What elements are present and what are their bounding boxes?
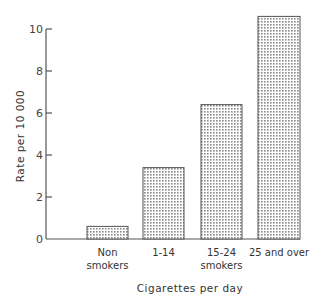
y-tick-label: 8	[36, 65, 43, 78]
x-axis-title: Cigarettes per day	[137, 282, 244, 294]
x-category-label: 15-24	[207, 247, 236, 258]
y-tick-label: 2	[36, 191, 43, 204]
bar	[258, 16, 300, 239]
y-tick-label: 4	[36, 149, 43, 162]
x-category-label: 25 and over	[249, 247, 310, 258]
y-tick-label: 6	[36, 107, 43, 120]
x-axis-category-labels: Nonsmokers1-1415-24smokers25 and over	[87, 247, 310, 271]
x-category-label: 1-14	[152, 247, 175, 258]
bar-chart: 0246810 Nonsmokers1-1415-24smokers25 and…	[0, 0, 330, 304]
x-category-label: smokers	[201, 260, 243, 271]
x-category-label: Non	[98, 247, 118, 258]
bar	[143, 168, 184, 239]
bar	[87, 226, 128, 239]
x-category-label: smokers	[87, 260, 129, 271]
bar	[201, 105, 242, 239]
y-tick-label: 0	[36, 233, 43, 246]
y-tick-label: 10	[29, 23, 43, 36]
y-axis-title: Rate per 10 000	[14, 90, 26, 182]
bars	[87, 16, 300, 239]
